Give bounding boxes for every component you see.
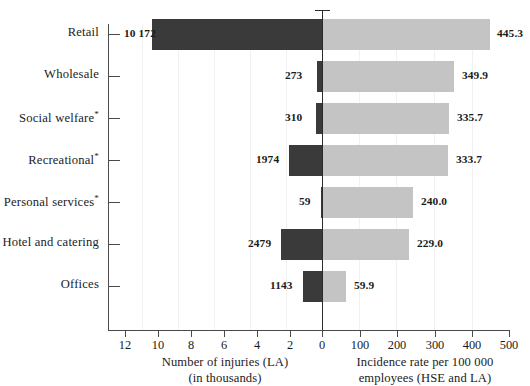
x-tick-left-8 [191, 330, 192, 337]
x-tick-label-left-10: 10 [152, 338, 164, 353]
value-label-left-personal-services: 59 [299, 195, 311, 207]
bar-left-retail [152, 19, 322, 50]
chart-container: Retail 10 172 445.3 Wholesale 273 349.9 … [0, 0, 530, 386]
bar-left-wholesale [317, 61, 322, 92]
bar-left-hotel-and-catering [281, 229, 322, 260]
value-label-left-social-welfare: 310 [285, 111, 302, 123]
x-tick-label-left-6: 6 [221, 338, 227, 353]
category-label-retail: Retail [68, 25, 99, 40]
value-label-right-personal-services: 240.0 [421, 195, 447, 207]
x-axis-line [108, 330, 510, 331]
left-axis-caption-line2: (in thousands) [188, 371, 261, 386]
right-axis-caption-line2: employees (HSE and LA) [359, 371, 492, 386]
bar-left-personal-services [321, 187, 322, 218]
x-tick-left-10 [158, 330, 159, 337]
left-axis-caption-line1: Number of injuries (LA) [162, 355, 288, 370]
value-label-left-wholesale: 273 [285, 69, 302, 81]
x-tick-left-6 [224, 330, 225, 337]
x-tick-label-left-2: 2 [287, 338, 293, 353]
x-tick-label-left-12: 12 [119, 338, 131, 353]
x-tick-label-right-200: 200 [388, 338, 407, 353]
chart-row: Retail 10 172 445.3 [0, 14, 530, 55]
value-label-left-hotel-and-catering: 2479 [248, 237, 271, 249]
x-tick-label-right-400: 400 [463, 338, 482, 353]
category-label-personal-services: Personal services* [4, 193, 99, 210]
chart-row: Hotel and catering 2479 229.0 [0, 224, 530, 265]
category-label-social-welfare: Social welfare* [19, 109, 99, 126]
bar-right-social-welfare [323, 103, 449, 134]
x-tick-right-200 [397, 330, 398, 337]
x-tick-right-300 [435, 330, 436, 337]
value-label-right-social-welfare: 335.7 [457, 111, 483, 123]
x-tick-left-2 [290, 330, 291, 337]
bar-left-offices [303, 271, 322, 302]
x-tick-zero [322, 330, 323, 337]
category-label-offices: Offices [61, 277, 99, 292]
x-tick-right-500 [509, 330, 510, 337]
right-axis-caption-line1: Incidence rate per 100 000 [357, 355, 494, 370]
value-label-left-offices: 1143 [270, 279, 293, 291]
chart-row: Recreational* 1974 333.7 [0, 140, 530, 181]
value-label-right-hotel-and-catering: 229.0 [417, 237, 443, 249]
value-label-left-retail: 10 172 [124, 27, 156, 39]
bar-left-social-welfare [316, 103, 322, 134]
bar-right-hotel-and-catering [323, 229, 409, 260]
x-tick-label-left-8: 8 [188, 338, 194, 353]
category-label-wholesale: Wholesale [44, 67, 99, 82]
bar-right-recreational [323, 145, 448, 176]
x-tick-label-right-100: 100 [351, 338, 370, 353]
category-tick [108, 286, 120, 287]
bar-right-wholesale [323, 61, 454, 92]
chart-row: Personal services* 59 240.0 [0, 182, 530, 223]
bar-right-retail [323, 19, 490, 50]
x-tick-label-left-4: 4 [254, 338, 260, 353]
value-label-right-retail: 445.3 [497, 27, 523, 39]
category-tick [108, 160, 120, 161]
x-tick-left-12 [125, 330, 126, 337]
chart-row: Offices 1143 59.9 [0, 266, 530, 307]
bar-left-recreational [289, 145, 322, 176]
category-label-recreational: Recreational* [28, 151, 99, 168]
x-tick-label-left-0: 0 [319, 338, 325, 353]
category-tick [108, 118, 120, 119]
bar-right-offices [323, 271, 346, 302]
x-tick-label-right-300: 300 [426, 338, 445, 353]
x-tick-label-right-500: 500 [500, 338, 519, 353]
x-tick-left-4 [257, 330, 258, 337]
category-tick [108, 202, 120, 203]
chart-row: Social welfare* 310 335.7 [0, 98, 530, 139]
value-label-right-offices: 59.9 [354, 279, 374, 291]
chart-row: Wholesale 273 349.9 [0, 56, 530, 97]
category-label-hotel-and-catering: Hotel and catering [2, 235, 99, 250]
bar-right-personal-services [323, 187, 413, 218]
plot-area: Retail 10 172 445.3 Wholesale 273 349.9 … [0, 0, 530, 386]
category-tick [108, 244, 120, 245]
x-tick-right-100 [360, 330, 361, 337]
category-tick [108, 76, 120, 77]
category-tick [108, 34, 120, 35]
value-label-left-recreational: 1974 [256, 153, 279, 165]
value-label-right-wholesale: 349.9 [462, 69, 488, 81]
x-tick-right-400 [472, 330, 473, 337]
value-label-right-recreational: 333.7 [456, 153, 482, 165]
